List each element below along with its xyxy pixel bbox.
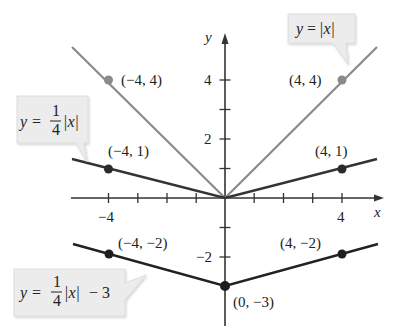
x-tick-label-neg4: −4 — [98, 209, 114, 225]
callout-quarter-lhs: y — [18, 113, 28, 131]
callout-quarter-eq: = — [32, 113, 41, 130]
x-tick-label-4: 4 — [337, 209, 345, 225]
point-4-1 — [338, 165, 347, 174]
point-neg4-1 — [104, 165, 113, 174]
x-axis-label: x — [373, 204, 381, 220]
y-tick-label-4: 4 — [204, 72, 212, 88]
callout-shift-den: 4 — [53, 292, 61, 309]
point-neg4-4 — [104, 76, 113, 85]
point-label-4-neg2: (4, −2) — [280, 235, 321, 252]
callout-abs-x-equation: y = |x| — [294, 20, 335, 38]
point-neg4-neg2 — [105, 250, 114, 259]
y-axis-arrow-icon — [222, 33, 229, 44]
callout-shift-body: |x| — [64, 284, 80, 302]
point-4-neg2 — [338, 250, 347, 259]
callout-shift-tail: − 3 — [89, 284, 110, 301]
point-label-4-1: (4, 1) — [315, 143, 348, 160]
y-tick-label-2: 2 — [204, 131, 212, 147]
callout-quarter-den: 4 — [52, 121, 60, 138]
point-label-neg4-neg2: (−4, −2) — [118, 235, 167, 252]
x-axis-arrow-icon — [374, 195, 384, 202]
point-label-neg4-1: (−4, 1) — [108, 143, 149, 160]
point-4-4 — [338, 76, 347, 85]
y-tick-label-neg2: −2 — [196, 249, 212, 265]
point-0-neg3 — [220, 281, 230, 291]
point-label-4-4: (4, 4) — [289, 72, 322, 89]
callout-abs-x-body: |x| — [319, 20, 335, 38]
callout-shift-num: 1 — [53, 273, 61, 290]
callout-shift-lhs: y — [18, 284, 28, 302]
callout-quarter-num: 1 — [52, 102, 60, 119]
graph-figure: x y −4 4 4 2 −2 (−4, 4) (4, 4) (−4, 1) (… — [0, 0, 401, 329]
callout-abs-x-lhs: y — [294, 20, 304, 38]
callout-quarter-body: |x| — [63, 113, 79, 131]
point-label-neg4-4: (−4, 4) — [121, 72, 162, 89]
y-axis-label: y — [203, 29, 212, 45]
callout-shift-eq: = — [32, 284, 41, 301]
point-label-0-neg3: (0, −3) — [233, 294, 274, 311]
callout-abs-x-eq: = — [307, 20, 316, 37]
coordinate-plane: x y −4 4 4 2 −2 (−4, 4) (4, 4) (−4, 1) (… — [0, 0, 401, 329]
